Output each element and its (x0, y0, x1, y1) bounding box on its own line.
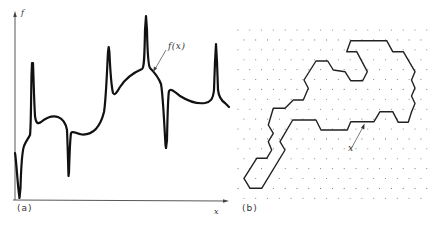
lattice-dot (308, 49, 309, 50)
lattice-dot (320, 69, 321, 70)
lattice-dot (273, 29, 274, 30)
lattice-dot (296, 168, 297, 169)
lattice-dot (279, 138, 280, 139)
lattice-dot (355, 29, 356, 30)
lattice-dot (426, 188, 427, 189)
lattice-dot (338, 198, 339, 199)
lattice-dot (385, 198, 386, 199)
lattice-dot (409, 138, 410, 139)
lattice-dot (367, 49, 368, 50)
lattice-dot (344, 89, 345, 90)
lattice-dot (291, 198, 292, 199)
lattice-dot (308, 109, 309, 110)
lattice-dot (344, 49, 345, 50)
lattice-dot (361, 119, 362, 120)
lattice-dot (314, 99, 315, 100)
lattice-dot (326, 99, 327, 100)
lattice-dot (249, 89, 250, 90)
lattice-dot (308, 128, 309, 129)
lattice-dot (249, 148, 250, 149)
lattice-polygon-path (244, 41, 415, 189)
lattice-dot (291, 178, 292, 179)
lattice-dot (403, 168, 404, 169)
lattice-dot (403, 109, 404, 110)
lattice-dot (420, 59, 421, 60)
lattice-dot (426, 69, 427, 70)
lattice-dot (355, 128, 356, 129)
lattice-dot (267, 198, 268, 199)
lattice-dot (320, 168, 321, 169)
lattice-dot (344, 29, 345, 30)
lattice-dot (302, 59, 303, 60)
lattice-dot (361, 158, 362, 159)
lattice-dot (344, 188, 345, 189)
lattice-dot (385, 138, 386, 139)
panel-b-lattice-polygon: x (b) (232, 0, 441, 226)
annotation-arrow-icon (153, 67, 157, 73)
lattice-dot (267, 138, 268, 139)
lattice-dot (302, 158, 303, 159)
lattice-dot (314, 79, 315, 80)
lattice-dot (243, 158, 244, 159)
lattice-dot (391, 29, 392, 30)
lattice-dot (350, 119, 351, 120)
lattice-dot (391, 69, 392, 70)
lattice-dot (391, 89, 392, 90)
point-annotation-label: x (348, 143, 354, 153)
lattice-dot (308, 188, 309, 189)
lattice-dot (296, 49, 297, 50)
lattice-dot (361, 79, 362, 80)
lattice-dot (326, 39, 327, 40)
lattice-dot (243, 39, 244, 40)
lattice-dot (267, 59, 268, 60)
lattice-dot (397, 158, 398, 159)
lattice-dot (296, 148, 297, 149)
lattice-dot (237, 69, 238, 70)
lattice-dot (332, 148, 333, 149)
lattice-dot (261, 89, 262, 90)
lattice-dot (403, 29, 404, 30)
lattice-dot (285, 89, 286, 90)
lattice-dot (414, 29, 415, 30)
lattice-dot (261, 148, 262, 149)
lattice-dot (344, 168, 345, 169)
lattice-dot (355, 49, 356, 50)
lattice-dot (403, 128, 404, 129)
lattice-dot (420, 119, 421, 120)
lattice-dot (355, 89, 356, 90)
lattice-dot (385, 79, 386, 80)
lattice-dot (414, 148, 415, 149)
y-axis-label: f (21, 8, 25, 17)
lattice-dot (332, 168, 333, 169)
x-axis-label: x (214, 207, 220, 216)
lattice-svg (232, 0, 441, 226)
lattice-dot (409, 178, 410, 179)
lattice-dot (397, 39, 398, 40)
lattice-dot (267, 119, 268, 120)
lattice-dot (273, 188, 274, 189)
lattice-dot (332, 29, 333, 30)
lattice-dot (261, 49, 262, 50)
lattice-dot (409, 99, 410, 100)
lattice-dot (279, 99, 280, 100)
lattice-dot (255, 59, 256, 60)
lattice-dot (361, 178, 362, 179)
lattice-dot (320, 89, 321, 90)
lattice-dot (296, 89, 297, 90)
lattice-dot (426, 109, 427, 110)
lattice-dot (350, 158, 351, 159)
lattice-dot (285, 128, 286, 129)
lattice-dot (326, 138, 327, 139)
lattice-dot (237, 29, 238, 30)
lattice-dot (237, 49, 238, 50)
lattice-dot (420, 158, 421, 159)
lattice-dot (237, 148, 238, 149)
lattice-dot (308, 29, 309, 30)
lattice-dot (385, 119, 386, 120)
lattice-dot (350, 59, 351, 60)
lattice-dot (296, 109, 297, 110)
lattice-dot (355, 188, 356, 189)
lattice-dot (420, 39, 421, 40)
function-plot-svg (0, 0, 232, 226)
lattice-dot (385, 158, 386, 159)
